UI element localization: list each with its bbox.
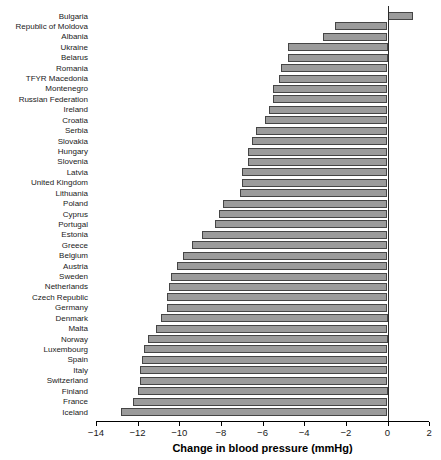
bar-croatia xyxy=(265,116,388,124)
bar-albania xyxy=(323,33,388,41)
bar-republic-of-moldova xyxy=(335,22,387,30)
bar-portugal xyxy=(215,220,388,228)
country-label-spain: Spain xyxy=(0,355,88,364)
country-label-czech-republic: Czech Republic xyxy=(0,293,88,302)
country-label-cyprus: Cyprus xyxy=(0,210,88,219)
x-tick--2 xyxy=(346,422,347,426)
country-label-united-kingdom: United Kingdom xyxy=(0,178,88,187)
bar-greece xyxy=(192,241,388,249)
country-label-finland: Finland xyxy=(0,387,88,396)
bar-czech-republic xyxy=(167,293,388,301)
bar-malta xyxy=(156,325,387,333)
country-label-malta: Malta xyxy=(0,324,88,333)
bar-spain xyxy=(142,356,388,364)
bar-belgium xyxy=(183,252,387,260)
country-label-croatia: Croatia xyxy=(0,116,88,125)
country-label-hungary: Hungary xyxy=(0,147,88,156)
country-label-russian-federation: Russian Federation xyxy=(0,95,88,104)
x-tick-label--2: −2 xyxy=(340,428,351,438)
country-label-france: France xyxy=(0,397,88,406)
country-label-estonia: Estonia xyxy=(0,230,88,239)
country-label-sweden: Sweden xyxy=(0,272,88,281)
x-tick-label--4: −4 xyxy=(299,428,310,438)
country-label-slovakia: Slovakia xyxy=(0,137,88,146)
bar-belarus xyxy=(288,54,388,62)
bar-poland xyxy=(223,200,388,208)
bar-bulgaria xyxy=(388,12,413,20)
x-tick-label--14: −14 xyxy=(88,428,104,438)
x-tick--6 xyxy=(263,422,264,426)
bar-finland xyxy=(138,387,388,395)
x-tick--10 xyxy=(179,422,180,426)
country-label-tfyr-macedonia: TFYR Macedonia xyxy=(0,74,88,83)
bar-slovakia xyxy=(252,137,387,145)
country-label-romania: Romania xyxy=(0,64,88,73)
bar-russian-federation xyxy=(273,95,388,103)
bar-denmark xyxy=(161,314,388,322)
bar-luxembourg xyxy=(144,345,388,353)
country-label-ukraine: Ukraine xyxy=(0,43,88,52)
bar-iceland xyxy=(121,408,388,416)
bar-estonia xyxy=(202,231,387,239)
country-label-serbia: Serbia xyxy=(0,126,88,135)
country-label-norway: Norway xyxy=(0,335,88,344)
country-label-ireland: Ireland xyxy=(0,105,88,114)
bar-norway xyxy=(148,335,388,343)
country-label-switzerland: Switzerland xyxy=(0,376,88,385)
country-label-montenegro: Montenegro xyxy=(0,84,88,93)
x-tick--8 xyxy=(221,422,222,426)
x-tick-label-2: 2 xyxy=(427,428,432,438)
country-label-republic-of-moldova: Republic of Moldova xyxy=(0,22,88,31)
country-label-slovenia: Slovenia xyxy=(0,157,88,166)
bar-germany xyxy=(167,304,388,312)
country-label-bulgaria: Bulgaria xyxy=(0,12,88,21)
bar-netherlands xyxy=(169,283,388,291)
bar-montenegro xyxy=(273,85,388,93)
country-label-netherlands: Netherlands xyxy=(0,282,88,291)
country-label-austria: Austria xyxy=(0,262,88,271)
country-label-greece: Greece xyxy=(0,241,88,250)
x-tick--4 xyxy=(304,422,305,426)
bar-serbia xyxy=(256,127,387,135)
bar-slovenia xyxy=(248,158,388,166)
country-label-portugal: Portugal xyxy=(0,220,88,229)
country-label-denmark: Denmark xyxy=(0,314,88,323)
bar-ukraine xyxy=(288,43,388,51)
x-tick-2 xyxy=(429,422,430,426)
x-tick-label--8: −8 xyxy=(215,428,226,438)
x-tick--14 xyxy=(96,422,97,426)
x-tick-label-0: 0 xyxy=(385,428,390,438)
country-label-belgium: Belgium xyxy=(0,251,88,260)
country-label-belarus: Belarus xyxy=(0,53,88,62)
bar-romania xyxy=(281,64,387,72)
country-label-poland: Poland xyxy=(0,199,88,208)
bar-united-kingdom xyxy=(242,179,388,187)
country-label-latvia: Latvia xyxy=(0,168,88,177)
country-label-italy: Italy xyxy=(0,366,88,375)
bar-ireland xyxy=(269,106,388,114)
x-tick--12 xyxy=(138,422,139,426)
bar-latvia xyxy=(242,168,388,176)
country-label-lithuania: Lithuania xyxy=(0,189,88,198)
country-label-germany: Germany xyxy=(0,303,88,312)
x-tick-label--6: −6 xyxy=(257,428,268,438)
x-axis-title: Change in blood pressure (mmHg) xyxy=(96,442,429,454)
bar-cyprus xyxy=(219,210,388,218)
bar-lithuania xyxy=(240,189,388,197)
bar-italy xyxy=(140,366,388,374)
country-label-luxembourg: Luxembourg xyxy=(0,345,88,354)
x-tick-0 xyxy=(388,422,389,426)
bar-switzerland xyxy=(140,377,388,385)
bar-france xyxy=(133,398,387,406)
country-label-iceland: Iceland xyxy=(0,408,88,417)
zero-reference-line xyxy=(388,6,389,421)
bar-hungary xyxy=(248,148,388,156)
bar-chart: BulgariaRepublic of MoldovaAlbaniaUkrain… xyxy=(0,0,441,460)
country-label-albania: Albania xyxy=(0,32,88,41)
x-tick-label--12: −12 xyxy=(129,428,145,438)
bar-austria xyxy=(177,262,387,270)
bar-sweden xyxy=(171,273,388,281)
bar-tfyr-macedonia xyxy=(279,75,387,83)
x-tick-label--10: −10 xyxy=(171,428,187,438)
